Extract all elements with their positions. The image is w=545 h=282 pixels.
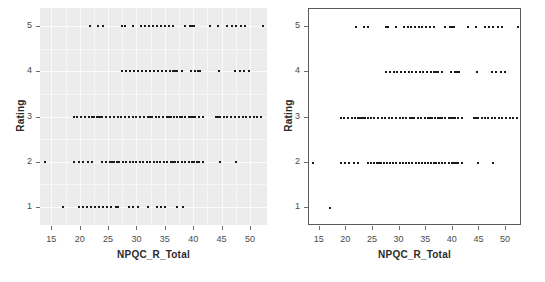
data-point: [444, 117, 446, 119]
data-point: [457, 117, 459, 119]
data-point: [395, 162, 397, 164]
data-point: [181, 70, 183, 72]
y-tick-mark: [36, 207, 40, 208]
data-point: [145, 70, 147, 72]
data-point: [256, 116, 258, 118]
y-tick-label: 4: [16, 65, 32, 75]
data-point: [512, 117, 514, 119]
data-point: [109, 116, 111, 118]
data-point: [226, 25, 228, 27]
x-tick-label: 45: [466, 234, 490, 244]
x-tick-mark: [478, 226, 479, 230]
gridline-major-horizontal: [40, 207, 267, 208]
x-tick-label: 35: [153, 234, 177, 244]
plot-area-right: [308, 8, 521, 225]
data-point: [395, 117, 397, 119]
y-tick-mark: [304, 162, 308, 163]
x-tick-mark: [452, 226, 453, 230]
data-point: [82, 161, 84, 163]
data-point: [492, 26, 494, 28]
data-point: [458, 71, 460, 73]
data-point: [155, 116, 157, 118]
y-tick-mark: [36, 117, 40, 118]
data-point: [140, 25, 142, 27]
data-point: [239, 70, 241, 72]
data-point: [166, 161, 168, 163]
data-point: [484, 26, 486, 28]
data-point: [135, 161, 137, 163]
data-point: [438, 162, 440, 164]
data-point: [383, 162, 385, 164]
data-point: [388, 117, 390, 119]
data-point: [418, 162, 420, 164]
data-point: [427, 162, 429, 164]
data-point: [329, 207, 331, 209]
data-point: [217, 25, 219, 27]
data-point: [240, 25, 242, 27]
data-point: [151, 116, 153, 118]
data-point: [139, 116, 141, 118]
data-point: [497, 26, 499, 28]
x-tick-mark: [51, 226, 52, 230]
data-point: [164, 206, 166, 208]
data-point: [182, 206, 184, 208]
x-tick-label: 15: [39, 234, 63, 244]
data-point: [509, 117, 511, 119]
y-tick-mark: [304, 207, 308, 208]
x-tick-mark: [345, 226, 346, 230]
data-point: [177, 161, 179, 163]
x-tick-label: 40: [440, 234, 464, 244]
x-tick-mark: [222, 226, 223, 230]
x-tick-label: 30: [387, 234, 411, 244]
data-point: [110, 206, 112, 208]
data-point: [414, 26, 416, 28]
data-point: [105, 116, 107, 118]
data-point: [253, 116, 255, 118]
data-point: [488, 26, 490, 28]
data-point: [370, 162, 372, 164]
data-point: [190, 70, 192, 72]
x-tick-label: 30: [124, 234, 148, 244]
data-point: [403, 26, 405, 28]
y-tick-label: 1: [284, 201, 300, 211]
data-point: [441, 117, 443, 119]
x-tick-mark: [399, 226, 400, 230]
data-point: [142, 161, 144, 163]
data-point: [262, 25, 264, 27]
data-point: [450, 71, 452, 73]
data-point: [165, 70, 167, 72]
data-point: [137, 70, 139, 72]
data-point: [410, 26, 412, 28]
data-point: [170, 116, 172, 118]
data-point: [156, 161, 158, 163]
data-point: [124, 116, 126, 118]
data-point: [243, 70, 245, 72]
data-point: [113, 116, 115, 118]
data-point: [400, 71, 402, 73]
data-point: [461, 162, 463, 164]
y-tick-mark: [304, 71, 308, 72]
data-point: [89, 25, 91, 27]
data-point: [421, 162, 423, 164]
data-point: [417, 117, 419, 119]
data-point: [78, 161, 80, 163]
data-point: [340, 117, 342, 119]
gridline-minor-horizontal: [40, 139, 267, 140]
data-point: [149, 161, 151, 163]
data-point: [312, 162, 314, 164]
x-tick-mark: [505, 226, 506, 230]
data-point: [146, 161, 148, 163]
data-point: [495, 71, 497, 73]
data-point: [168, 25, 170, 27]
data-point: [147, 206, 149, 208]
x-tick-mark: [319, 226, 320, 230]
data-point: [102, 25, 104, 27]
data-point: [193, 25, 195, 27]
data-point: [260, 116, 262, 118]
data-point: [94, 206, 96, 208]
data-point: [176, 206, 178, 208]
data-point: [235, 161, 237, 163]
data-point: [477, 117, 479, 119]
data-point: [448, 162, 450, 164]
data-point: [132, 25, 134, 27]
